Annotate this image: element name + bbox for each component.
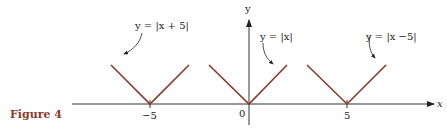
x-axis-label: x <box>437 98 443 109</box>
pointer-arrow-1 <box>124 33 142 54</box>
figure-label: Figure 4 <box>10 108 62 121</box>
graph-abs-x-plus-5 <box>111 65 189 104</box>
y-axis-label: y <box>245 3 251 14</box>
tick-label-5: 5 <box>344 110 350 121</box>
graph-abs-x <box>209 65 287 104</box>
equation-label-2: y = |x| <box>260 31 293 42</box>
pointer-arrow-2 <box>263 43 273 64</box>
tick-label-0: 0 <box>239 108 245 119</box>
equation-label-1: y = |x + 5| <box>135 20 189 31</box>
abs-value-plot <box>0 0 447 129</box>
equation-label-3: y = |x −5| <box>366 31 417 42</box>
tick-label-m5: −5 <box>142 110 157 121</box>
graph-abs-x-minus-5 <box>307 65 386 104</box>
